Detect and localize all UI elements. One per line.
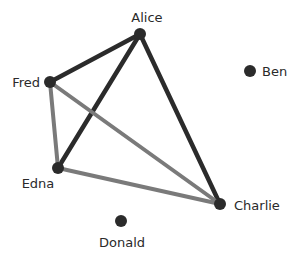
edges-group — [50, 34, 220, 204]
network-diagram: Alice Fred Ben Edna Charlie Donald — [0, 0, 296, 259]
edge-fred-edna — [50, 82, 58, 168]
node-label-donald: Donald — [99, 235, 145, 250]
node-label-fred: Fred — [12, 75, 40, 90]
node-label-charlie: Charlie — [234, 198, 280, 213]
node-label-edna: Edna — [22, 176, 55, 191]
edge-alice-charlie — [140, 34, 220, 204]
node-edna — [52, 162, 64, 174]
node-ben — [244, 65, 256, 77]
node-donald — [115, 215, 127, 227]
node-label-alice: Alice — [131, 10, 162, 25]
node-label-ben: Ben — [262, 64, 287, 79]
node-fred — [44, 76, 56, 88]
node-charlie — [214, 198, 226, 210]
node-alice — [134, 28, 146, 40]
